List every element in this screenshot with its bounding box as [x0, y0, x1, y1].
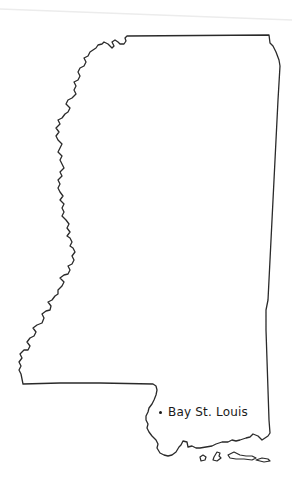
barrier-island-3 [228, 452, 256, 460]
barrier-island-4 [256, 458, 270, 462]
city-label: Bay St. Louis [168, 405, 248, 419]
state-outline [19, 35, 280, 456]
barrier-island-1 [200, 455, 206, 461]
scan-artifact-line [0, 9, 292, 20]
barrier-island-2 [213, 452, 221, 461]
map-canvas [0, 0, 292, 485]
city-marker-icon [159, 411, 162, 414]
